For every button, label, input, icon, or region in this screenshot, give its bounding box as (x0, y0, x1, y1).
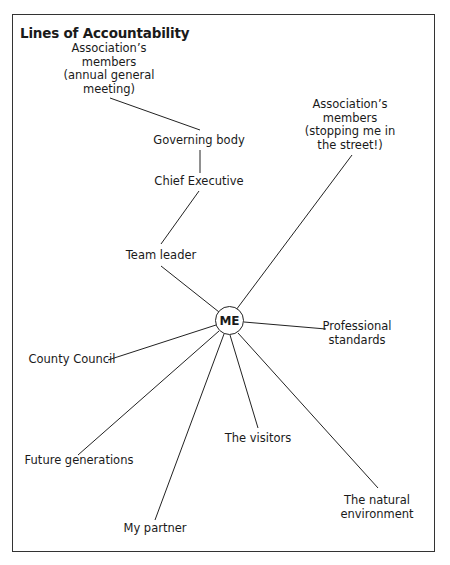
node-line: the street!) (305, 139, 395, 153)
node-line: Association’s (305, 98, 395, 112)
node-county-council: County Council (29, 353, 116, 367)
node-line: meeting) (63, 83, 154, 97)
edge-visitors-me (230, 335, 258, 428)
node-natural-environment: The natural environment (340, 494, 413, 521)
node-future-generations: Future generations (25, 454, 134, 468)
node-line: environment (340, 508, 413, 522)
node-line: members (63, 56, 154, 70)
node-association-members-agm: Association’s members (annual general me… (63, 42, 154, 96)
node-association-members-street: Association’s members (stopping me in th… (305, 98, 395, 152)
node-my-partner: My partner (123, 522, 186, 536)
node-the-visitors: The visitors (225, 432, 292, 446)
edge-chief-teamleader (161, 191, 199, 244)
edge-future-me (78, 331, 219, 455)
edge-natural-me (238, 333, 378, 488)
node-line: (stopping me in (305, 125, 395, 139)
node-chief-executive: Chief Executive (154, 175, 243, 189)
edge-partner-me (155, 334, 224, 520)
node-line: Professional (322, 320, 391, 334)
edge-county-me (108, 325, 216, 360)
node-professional-standards: Professional standards (322, 320, 391, 347)
edge-teamleader-me (161, 266, 219, 312)
node-governing-body: Governing body (153, 134, 245, 148)
node-line: (annual general (63, 69, 154, 83)
node-line: members (305, 112, 395, 126)
node-line: The natural (340, 494, 413, 508)
edge-professional-me (244, 322, 326, 329)
me-node: ME (215, 306, 244, 335)
node-line: Association’s (63, 42, 154, 56)
edge-agm-governing (110, 98, 200, 130)
node-line: standards (322, 334, 391, 348)
edge-street-me (236, 155, 352, 310)
node-team-leader: Team leader (126, 249, 196, 263)
